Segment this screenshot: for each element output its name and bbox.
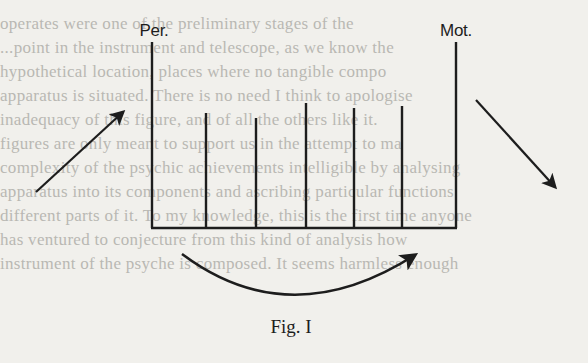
apparatus-systems <box>151 42 457 228</box>
psychic-apparatus-diagram <box>0 0 588 363</box>
output-arrow-icon <box>476 100 555 187</box>
mot-label: Mot. <box>440 21 472 41</box>
figure-page: operates were one of the preliminary sta… <box>0 0 588 363</box>
per-label: Per. <box>139 21 168 41</box>
figure-caption: Fig. I <box>270 316 311 338</box>
curved-arrow-icon <box>182 254 415 295</box>
input-arrow-icon <box>36 112 123 192</box>
